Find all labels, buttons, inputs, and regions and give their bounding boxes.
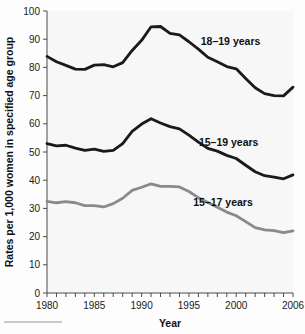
y-axis: 0102030405060708090100 <box>23 6 47 299</box>
plot-background <box>47 11 293 293</box>
y-tick-marks <box>43 11 47 293</box>
y-tick-label: 40 <box>29 175 41 186</box>
y-tick-label: 10 <box>29 259 41 270</box>
y-tick-label: 100 <box>23 6 40 17</box>
y-tick-label: 90 <box>29 34 41 45</box>
series-label-18-19-years: 18–19 years <box>201 35 261 47</box>
x-tick-label: 1980 <box>36 300 59 311</box>
y-tick-label: 50 <box>29 147 41 158</box>
y-axis-title: Rates per 1,000 women in specified age g… <box>3 37 15 268</box>
y-tick-label: 20 <box>29 231 41 242</box>
x-axis-title: Year <box>159 317 181 329</box>
y-tick-label: 70 <box>29 90 41 101</box>
chart-canvas: 0102030405060708090100 19801985199019952… <box>0 0 305 334</box>
y-tick-labels: 0102030405060708090100 <box>23 6 40 299</box>
teen-birth-rate-line-chart: 0102030405060708090100 19801985199019952… <box>0 0 305 334</box>
x-tick-label: 2000 <box>225 300 248 311</box>
x-tick-label: 2006 <box>282 300 305 311</box>
y-tick-label: 80 <box>29 62 41 73</box>
x-axis: 198019851990199520002006 <box>36 293 305 311</box>
x-tick-marks <box>47 293 293 297</box>
x-tick-label: 1990 <box>130 300 153 311</box>
x-tick-label: 1995 <box>178 300 201 311</box>
series-label-15-19-years: 15–19 years <box>199 136 259 148</box>
x-tick-label: 1985 <box>83 300 106 311</box>
x-tick-labels: 198019851990199520002006 <box>36 300 305 311</box>
series-label-15-17-years: 15–17 years <box>193 196 253 208</box>
y-tick-label: 0 <box>34 288 40 299</box>
y-tick-label: 60 <box>29 118 41 129</box>
y-tick-label: 30 <box>29 203 41 214</box>
